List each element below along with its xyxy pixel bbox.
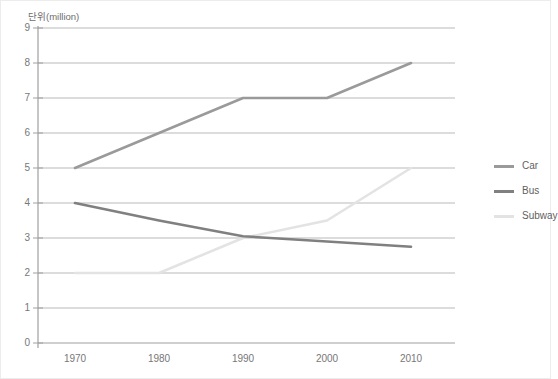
- series-line-bus: [75, 203, 411, 247]
- legend-label-car: Car: [522, 161, 538, 171]
- legend-swatch-bus: [494, 190, 514, 193]
- series-line-car: [75, 63, 411, 168]
- legend-label-subway: Subway: [522, 211, 558, 221]
- y-axis-line: [33, 26, 43, 348]
- legend-swatch-car: [494, 165, 514, 168]
- series-line-subway: [75, 168, 411, 273]
- legend-label-bus: Bus: [522, 186, 539, 196]
- legend-item-bus[interactable]: Bus: [494, 185, 539, 197]
- legend-item-car[interactable]: Car: [494, 160, 538, 172]
- legend-item-subway[interactable]: Subway: [494, 210, 558, 222]
- legend-swatch-subway: [494, 215, 514, 218]
